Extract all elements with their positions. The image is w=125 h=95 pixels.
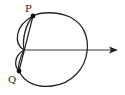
polar-curve-diagram: P Q	[0, 0, 125, 95]
point-q-dot	[17, 69, 22, 74]
point-p-dot	[31, 14, 36, 19]
point-q-label: Q	[8, 74, 16, 85]
point-p-label: P	[25, 3, 32, 14]
chord-pq	[19, 16, 33, 71]
